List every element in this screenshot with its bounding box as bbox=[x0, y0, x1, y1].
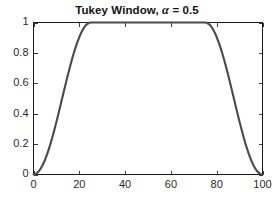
tukey-window-curve bbox=[34, 23, 263, 175]
x-tick-label: 20 bbox=[73, 178, 85, 190]
tick-labels-group: 02040608010000.20.40.60.81 bbox=[13, 15, 271, 189]
y-tick-label: 0 bbox=[22, 167, 28, 179]
x-tick-label: 100 bbox=[253, 178, 271, 190]
x-tick-label: 80 bbox=[211, 178, 223, 190]
y-tick-label: 0.4 bbox=[13, 107, 28, 119]
axes-box bbox=[34, 23, 263, 175]
plot-area: 02040608010000.20.40.60.81 bbox=[0, 0, 274, 197]
y-tick-label: 1 bbox=[22, 15, 28, 27]
x-tick-label: 60 bbox=[165, 178, 177, 190]
figure-container: Tukey Window, α = 0.5 02040608010000.20.… bbox=[0, 0, 274, 197]
x-tick-label: 40 bbox=[119, 178, 131, 190]
y-tick-label: 0.2 bbox=[13, 137, 28, 149]
y-tick-label: 0.8 bbox=[13, 46, 28, 58]
x-tick-label: 0 bbox=[30, 178, 36, 190]
y-tick-label: 0.6 bbox=[13, 76, 28, 88]
tick-marks-group bbox=[34, 23, 264, 176]
